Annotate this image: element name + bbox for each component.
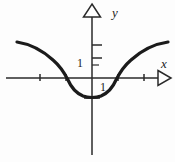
x-axis-tick-label-1: 1 (100, 81, 106, 93)
y-axis-arrowhead-icon (84, 4, 101, 17)
y-axis-tick-label-1: 1 (77, 57, 83, 69)
graph-canvas (0, 0, 175, 162)
x-axis-arrowhead-icon (158, 71, 171, 86)
y-axis-label: y (112, 6, 118, 19)
x-axis-label: x (161, 57, 167, 70)
graph-figure: y x 1 1 (0, 0, 175, 162)
